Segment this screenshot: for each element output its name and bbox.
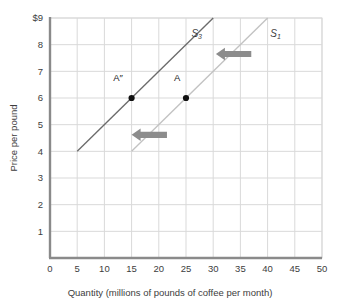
x-tick-label: 0 xyxy=(47,263,52,274)
y-tick-label: 5 xyxy=(38,119,43,130)
x-tick-label: 35 xyxy=(235,263,246,274)
y-tick-label: 8 xyxy=(38,39,43,50)
data-point-A-double-prime xyxy=(129,95,135,101)
x-tick-label: 30 xyxy=(208,263,219,274)
y-tick-label: 6 xyxy=(38,92,43,103)
x-tick-label: 50 xyxy=(317,263,328,274)
x-tick-label: 15 xyxy=(126,263,137,274)
x-axis-title: Quantity (millions of pounds of coffee p… xyxy=(68,287,273,298)
point-label-A: A xyxy=(174,72,181,83)
point-label-A-double-prime: A″ xyxy=(113,72,123,83)
y-tick-label: 2 xyxy=(38,199,43,210)
chart-svg: 05101520253035404550 12345678$9 S3S1 A″A… xyxy=(0,0,339,306)
y-tick-label: 3 xyxy=(38,172,43,183)
y-axis-title: Price per pound xyxy=(8,104,19,171)
x-tick-label: 5 xyxy=(75,263,80,274)
y-tick-label: 1 xyxy=(38,226,43,237)
x-tick-label: 40 xyxy=(262,263,273,274)
y-tick-label: 7 xyxy=(38,66,43,77)
y-tick-label: 4 xyxy=(38,146,43,157)
x-tick-label: 10 xyxy=(99,263,110,274)
x-tick-label: 25 xyxy=(181,263,192,274)
supply-curve-chart: 05101520253035404550 12345678$9 S3S1 A″A… xyxy=(0,0,339,306)
x-tick-label: 20 xyxy=(154,263,165,274)
x-tick-label: 45 xyxy=(290,263,301,274)
y-tick-label: $9 xyxy=(32,12,43,23)
data-point-A xyxy=(183,95,189,101)
